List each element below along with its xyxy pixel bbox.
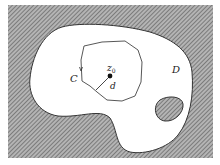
diagram-canvas: C D z0 d [0,0,220,165]
point-z0 [108,74,113,79]
label-d-domain: D [171,64,180,75]
label-c: C [70,73,78,84]
label-distance: d [110,81,116,91]
